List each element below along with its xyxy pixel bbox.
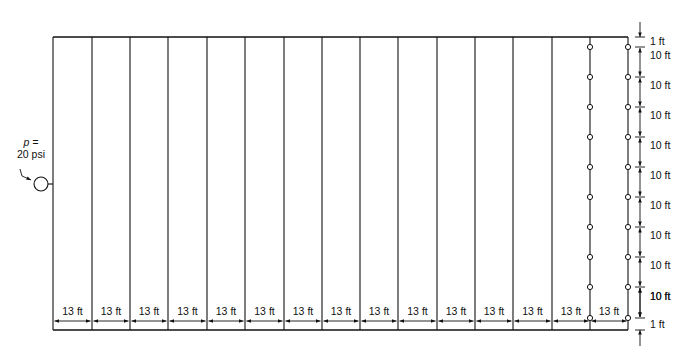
sprinkler-head-icon (587, 164, 592, 169)
sprinkler-head-icon (587, 104, 592, 109)
sprinkler-head-icon (587, 74, 592, 79)
pressure-label-line2: 20 psi (17, 148, 45, 160)
dimension-label-horizontal: 13 ft (407, 305, 428, 317)
dimension-label-horizontal: 13 ft (101, 305, 122, 317)
dimension-label-horizontal: 13 ft (293, 305, 314, 317)
dimension-label-horizontal: 13 ft (446, 305, 467, 317)
sprinkler-head-icon (625, 44, 630, 49)
dimension-label-horizontal: 13 ft (62, 305, 83, 317)
sprinkler-head-icon (625, 74, 630, 79)
sprinkler-head-icon (625, 284, 630, 289)
dimension-label-vertical: 10 ft (650, 169, 671, 181)
dimension-label-horizontal: 13 ft (561, 305, 582, 317)
dimension-label-vertical: 10 ft (650, 139, 671, 151)
pressure-label-line1: p = (23, 136, 39, 148)
dimension-label-horizontal: 13 ft (177, 305, 198, 317)
dimension-label-vertical: 1 ft (650, 35, 665, 47)
supply-riser-icon (34, 177, 48, 191)
dimension-label-vertical: 10 ft (650, 259, 671, 271)
dimension-label-vertical: 10 ft (650, 49, 671, 61)
dimension-label-vertical: 10 ft (650, 109, 671, 121)
sprinkler-head-icon (625, 104, 630, 109)
sprinkler-head-icon (625, 164, 630, 169)
dimension-label-horizontal: 13 ft (599, 305, 620, 317)
sprinkler-head-icon (625, 224, 630, 229)
sprinkler-head-icon (625, 315, 630, 320)
dimension-label-horizontal: 13 ft (331, 305, 352, 317)
sprinkler-head-icon (625, 194, 630, 199)
dimension-label-horizontal: 13 ft (139, 305, 160, 317)
dimension-label-horizontal: 13 ft (484, 305, 505, 317)
dimension-label-horizontal: 13 ft (369, 305, 390, 317)
sprinkler-head-icon (587, 315, 592, 320)
sprinkler-head-icon (587, 284, 592, 289)
sprinkler-head-icon (587, 194, 592, 199)
dimension-label-horizontal: 13 ft (254, 305, 275, 317)
dimension-label-vertical: 10 ft (650, 199, 671, 211)
dimension-label-vertical: 1 ft (650, 318, 665, 330)
sprinkler-head-icon (587, 254, 592, 259)
sprinkler-layout-diagram: p =20 psi13 ft13 ft13 ft13 ft13 ft13 ft1… (0, 0, 688, 361)
leader-arrow-icon (20, 169, 31, 180)
dimension-label-vertical: 10 ft (650, 290, 671, 302)
dimension-label-horizontal: 13 ft (216, 305, 237, 317)
sprinkler-head-icon (587, 44, 592, 49)
sprinkler-head-icon (625, 254, 630, 259)
dimension-label-vertical: 10 ft (650, 229, 671, 241)
dimension-label-vertical: 10 ft (650, 79, 671, 91)
sprinkler-head-icon (625, 134, 630, 139)
dimension-label-horizontal: 13 ft (522, 305, 543, 317)
sprinkler-head-icon (587, 134, 592, 139)
sprinkler-head-icon (587, 224, 592, 229)
